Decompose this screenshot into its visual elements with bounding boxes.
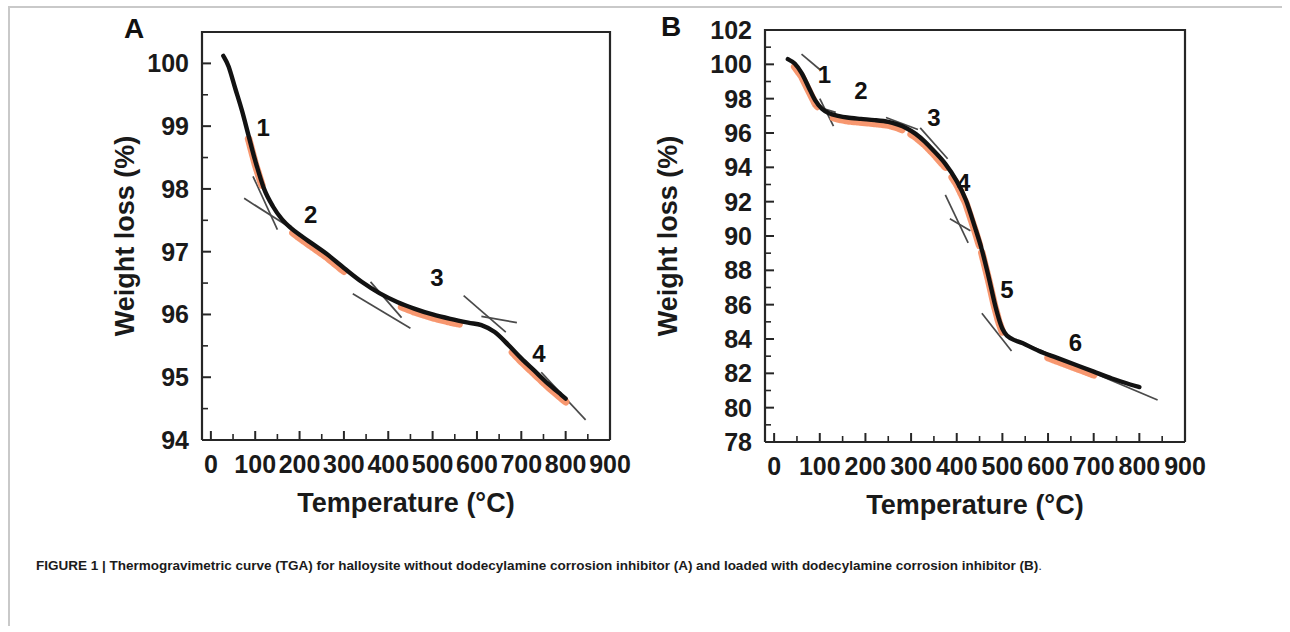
segment-label-5: 5 [1000,276,1013,303]
caption-body: Thermogravimetric curve (TGA) for halloy… [110,558,1039,573]
x-tick-label: 900 [1164,452,1206,480]
x-tick-label: 400 [936,452,978,480]
y-tick-label: 88 [724,256,752,284]
caption-period: . [1038,558,1042,573]
segment-label-4: 4 [532,340,546,367]
x-tick-label: 0 [204,450,218,478]
x-tick-label: 100 [234,450,276,478]
y-tick-label: 98 [724,85,752,113]
y-tick-label: 94 [724,153,752,181]
y-tick-label: 80 [724,394,752,422]
x-tick-label: 400 [367,450,409,478]
y-tick-label: 99 [161,112,189,140]
caption-figure-number: FIGURE 1 [36,558,98,573]
figure-caption: FIGURE 1 | Thermogravimetric curve (TGA)… [36,556,1246,576]
y-tick-label: 84 [724,325,752,353]
panel-letter: B [661,11,681,42]
y-tick-label: 102 [710,16,752,44]
panel-letter: A [124,13,144,44]
panel-a: 9495969798991000100200300400500600700800… [110,0,640,545]
x-tick-label: 100 [799,452,841,480]
x-tick-label: 200 [845,452,887,480]
segment-label-2: 2 [854,77,867,104]
highlight-segment-6 [1048,358,1094,375]
y-tick-label: 95 [161,363,189,391]
x-tick-label: 700 [500,450,542,478]
y-tick-label: 90 [724,222,752,250]
x-tick-label: 800 [545,450,587,478]
x-tick-label: 700 [1073,452,1115,480]
y-tick-label: 92 [724,188,752,216]
caption-separator: | [98,558,109,573]
y-tick-label: 100 [710,50,752,78]
tga-chart-panel-b: 7880828486889092949698100102010020030040… [655,0,1215,545]
y-axis-title: Weight loss (%) [655,136,683,337]
y-tick-label: 78 [724,428,752,456]
tangent-line [950,219,971,231]
x-tick-label: 500 [982,452,1024,480]
figure-root: 9495969798991000100200300400500600700800… [0,0,1290,632]
highlight-segment-2 [293,233,344,271]
x-tick-label: 800 [1118,452,1160,480]
figure-panels: 9495969798991000100200300400500600700800… [0,0,1290,545]
x-tick-label: 500 [412,450,454,478]
y-tick-label: 96 [161,300,189,328]
x-tick-label: 200 [279,450,321,478]
panel-b: 7880828486889092949698100102010020030040… [655,0,1215,545]
tga-curve [788,59,1140,387]
x-tick-label: 600 [1027,452,1069,480]
x-axis-title: Temperature (°C) [297,488,514,518]
plot-frame [202,32,610,440]
x-tick-label: 0 [767,452,781,480]
tangent-line [481,316,516,322]
segment-label-3: 3 [927,104,940,131]
tangent-line [353,294,411,329]
y-axis-title: Weight loss (%) [110,136,140,337]
tga-curve [223,56,565,399]
segment-label-3: 3 [430,264,443,291]
segment-label-2: 2 [304,201,317,228]
y-tick-label: 96 [724,119,752,147]
x-tick-label: 900 [589,450,631,478]
segment-label-6: 6 [1069,329,1082,356]
segment-label-1: 1 [818,61,831,88]
y-tick-label: 100 [147,49,189,77]
y-tick-label: 98 [161,175,189,203]
segment-label-1: 1 [257,114,270,141]
x-tick-label: 300 [323,450,365,478]
segment-label-4: 4 [957,169,971,196]
x-tick-label: 300 [890,452,932,480]
y-tick-label: 97 [161,238,189,266]
tga-chart-panel-a: 9495969798991000100200300400500600700800… [110,0,640,545]
y-tick-label: 82 [724,359,752,387]
x-axis-title: Temperature (°C) [866,490,1083,520]
y-tick-label: 94 [161,426,189,454]
y-tick-label: 86 [724,291,752,319]
x-tick-label: 600 [456,450,498,478]
